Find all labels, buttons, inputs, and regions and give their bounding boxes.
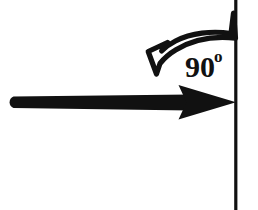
degree-symbol-icon: o [214,47,223,66]
angle-diagram-canvas: 90 o [0,0,258,210]
diagram-svg: 90 o [0,0,258,210]
angle-label-value: 90 [185,50,215,83]
